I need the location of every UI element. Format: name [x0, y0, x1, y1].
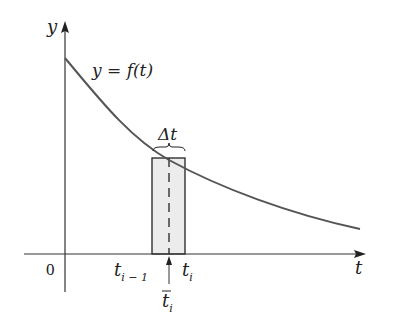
t-prev-label: ti − 1	[114, 259, 148, 284]
origin-label: 0	[46, 260, 55, 279]
diagram-canvas: y t 0 y = f(t) Δt ti − 1 ti ti	[0, 0, 395, 327]
y-axis-label: y	[46, 16, 58, 37]
t-bar-label: ti	[162, 290, 173, 315]
t-axis-label: t	[355, 257, 363, 278]
t-bar-pointer-arrow-icon	[166, 256, 172, 265]
curve-label: y = f(t)	[91, 60, 153, 80]
t-curr-label: ti	[182, 259, 193, 284]
delta-t-label: Δt	[157, 124, 177, 144]
curve-f-of-t	[65, 58, 360, 229]
delta-t-brace	[153, 143, 185, 151]
